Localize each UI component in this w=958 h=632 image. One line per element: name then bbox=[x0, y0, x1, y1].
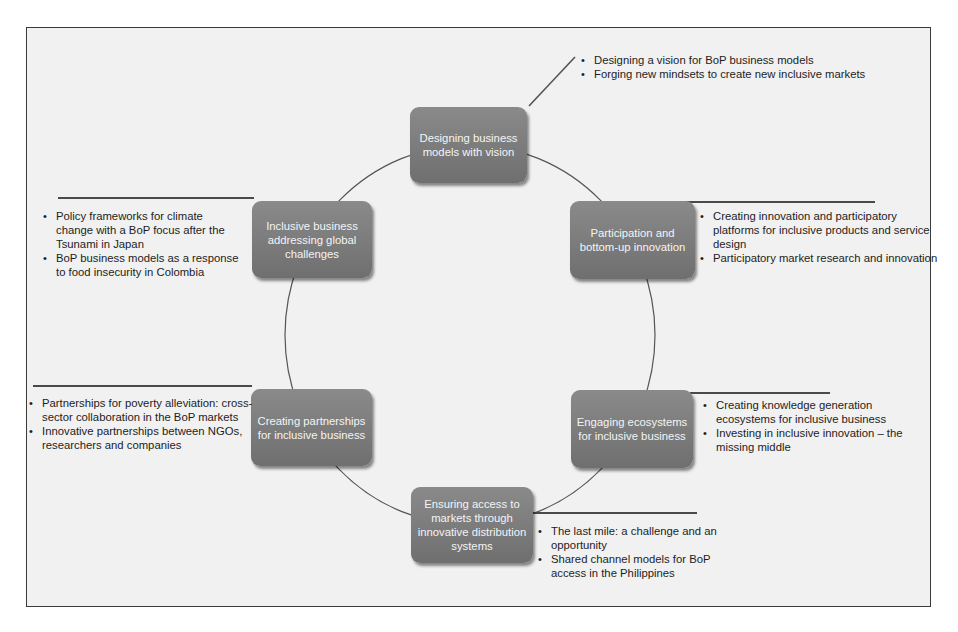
bullets-creating-partnerships: Partnerships for poverty alleviation: cr… bbox=[27, 396, 259, 452]
divider-bottom bbox=[533, 512, 697, 514]
node-label: Ensuring access to markets through innov… bbox=[415, 497, 529, 553]
bullet-item: Policy frameworks for climate change wit… bbox=[41, 209, 241, 251]
node-engaging-ecosystems: Engaging ecosystems for inclusive busine… bbox=[571, 390, 693, 468]
bullet-item: Partnerships for poverty alleviation: cr… bbox=[27, 396, 259, 424]
bullet-item: Innovative partnerships between NGOs, re… bbox=[27, 424, 259, 452]
node-label: Creating partnerships for inclusive busi… bbox=[255, 414, 368, 442]
node-inclusive-business-global: Inclusive business addressing global cha… bbox=[252, 201, 372, 278]
node-label: Participation and bottom-up innovation bbox=[574, 226, 691, 254]
node-label: Designing business models with vision bbox=[414, 131, 523, 159]
bullets-engaging-ecosystems: Creating knowledge generation ecosystems… bbox=[701, 398, 926, 454]
bullet-item: Creating innovation and participatory pl… bbox=[698, 209, 938, 251]
bullet-item: Participatory market research and innova… bbox=[698, 251, 938, 265]
node-designing-business-models: Designing business models with vision bbox=[410, 107, 527, 183]
node-ensuring-access: Ensuring access to markets through innov… bbox=[411, 487, 533, 563]
connector-top bbox=[529, 57, 575, 106]
node-label: Inclusive business addressing global cha… bbox=[256, 219, 368, 261]
bullet-item: Forging new mindsets to create new inclu… bbox=[579, 67, 869, 81]
bullet-item: Investing in inclusive innovation – the … bbox=[701, 426, 926, 454]
bullet-item: BoP business models as a response to foo… bbox=[41, 251, 241, 279]
node-creating-partnerships: Creating partnerships for inclusive busi… bbox=[251, 389, 372, 466]
bullet-item: Designing a vision for BoP business mode… bbox=[579, 53, 869, 67]
node-label: Engaging ecosystems for inclusive busine… bbox=[575, 415, 689, 443]
bullet-item: Shared channel models for BoP access in … bbox=[536, 552, 736, 580]
divider-left-top bbox=[58, 197, 254, 199]
node-participation-innovation: Participation and bottom-up innovation bbox=[570, 201, 695, 279]
bullets-participation-innovation: Creating innovation and participatory pl… bbox=[698, 209, 938, 265]
divider-right-bottom bbox=[690, 392, 830, 394]
divider-left-bottom bbox=[33, 385, 252, 387]
bullets-ensuring-access: The last mile: a challenge and an opport… bbox=[536, 524, 736, 580]
bullet-item: Creating knowledge generation ecosystems… bbox=[701, 398, 926, 426]
bullets-inclusive-business-global: Policy frameworks for climate change wit… bbox=[41, 209, 241, 279]
bullets-designing-business-models: Designing a vision for BoP business mode… bbox=[579, 53, 869, 81]
divider-right-top bbox=[682, 201, 875, 203]
bullet-item: The last mile: a challenge and an opport… bbox=[536, 524, 736, 552]
